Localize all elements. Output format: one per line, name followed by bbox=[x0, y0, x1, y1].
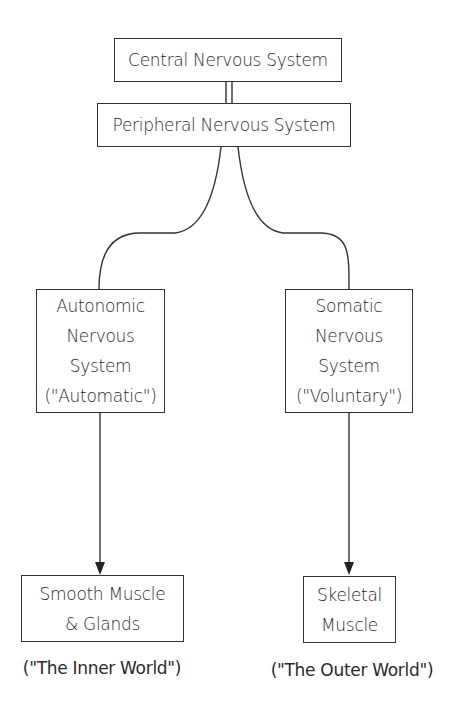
ans-line-4: ("Automatic") bbox=[44, 381, 156, 411]
sns-line-1: Somatic bbox=[316, 291, 383, 321]
smooth-line-1: Smooth Muscle bbox=[40, 579, 166, 609]
central-nervous-system-node: Central Nervous System bbox=[114, 38, 342, 82]
central-nervous-system-label: Central Nervous System bbox=[128, 45, 328, 75]
inner-world-caption: ("The Inner World") bbox=[12, 658, 192, 678]
smooth-line-2: & Glands bbox=[65, 609, 140, 639]
sns-line-3: System bbox=[318, 351, 380, 381]
peripheral-nervous-system-label: Peripheral Nervous System bbox=[113, 110, 336, 140]
pns-ans-curve bbox=[99, 147, 221, 289]
autonomic-nervous-system-node: Autonomic Nervous System ("Automatic") bbox=[36, 289, 165, 413]
ans-line-1: Autonomic bbox=[56, 291, 145, 321]
cns-pns-connector bbox=[226, 82, 232, 103]
ans-line-2: Nervous bbox=[66, 321, 134, 351]
smooth-muscle-glands-node: Smooth Muscle & Glands bbox=[21, 575, 184, 642]
skeletal-muscle-node: Skeletal Muscle bbox=[303, 576, 396, 643]
sns-line-4: ("Voluntary") bbox=[296, 381, 402, 411]
pns-sns-curve bbox=[238, 147, 349, 289]
sns-line-2: Nervous bbox=[315, 321, 383, 351]
ans-smooth-arrowhead bbox=[95, 562, 105, 575]
somatic-nervous-system-node: Somatic Nervous System ("Voluntary") bbox=[285, 289, 413, 413]
outer-world-caption: ("The Outer World") bbox=[254, 660, 450, 680]
sns-skeletal-arrowhead bbox=[344, 562, 354, 575]
skeletal-line-1: Skeletal bbox=[317, 580, 382, 610]
peripheral-nervous-system-node: Peripheral Nervous System bbox=[97, 103, 351, 147]
ans-line-3: System bbox=[70, 351, 132, 381]
skeletal-line-2: Muscle bbox=[321, 610, 378, 640]
